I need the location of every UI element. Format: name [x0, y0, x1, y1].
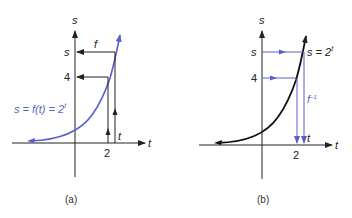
- right-arrow-4: [270, 76, 277, 81]
- tick-label-s: s: [251, 46, 257, 58]
- inverse-function-label: f−1: [307, 93, 317, 105]
- tick-label-4: 4: [64, 71, 70, 83]
- caption-b: (b): [257, 194, 269, 205]
- y-axis-label: s: [72, 14, 78, 26]
- curve-equation: s = f(t) = 2t: [14, 102, 67, 115]
- x-axis-label: t: [335, 139, 339, 151]
- left-arrow-head: [214, 140, 222, 145]
- left-arrow-head: [27, 138, 35, 143]
- tick-label-2: 2: [293, 149, 299, 161]
- tick-label-2: 2: [104, 147, 110, 159]
- up-arrow-t: [113, 108, 118, 115]
- panel-a: s t s 4 2 t f s = f(t) = 2t (a): [12, 14, 152, 205]
- x-axis-label: t: [148, 137, 152, 149]
- tick-label-t: t: [307, 132, 311, 144]
- function-inverse-diagram: s t s 4 2 t f s = f(t) = 2t (a) s t: [0, 0, 352, 218]
- right-arrow-s: [279, 50, 286, 55]
- up-arrow-2: [106, 128, 111, 135]
- function-label-f: f: [94, 38, 98, 50]
- tick-label-4: 4: [251, 72, 257, 84]
- curve-equation: s = 2t: [307, 45, 334, 58]
- tick-label-t: t: [118, 130, 122, 142]
- tick-label-s: s: [64, 46, 70, 58]
- panel-b: s t s 4 2 t f−1 s = 2t (b): [199, 14, 339, 205]
- y-axis-label: s: [259, 14, 265, 26]
- caption-a: (a): [65, 194, 77, 205]
